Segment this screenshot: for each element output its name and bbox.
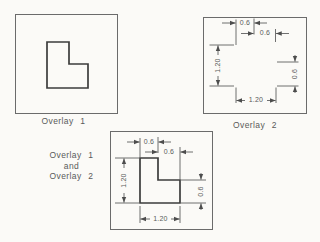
combined-caption-line-2: and bbox=[40, 161, 103, 172]
dim-label: 0.6 bbox=[144, 138, 154, 145]
combined-caption: Overlay 1 and Overlay 2 bbox=[40, 150, 103, 182]
dim-label: 0.6 bbox=[260, 29, 270, 36]
overlay-1-panel bbox=[15, 14, 118, 114]
dim-label: 1.20 bbox=[249, 96, 263, 103]
dim-label: 1.20 bbox=[153, 215, 167, 222]
combined-caption-line-3: Overlay 2 bbox=[40, 171, 103, 182]
overlay-2-caption: Overlay 2 bbox=[203, 120, 307, 130]
dim-label: 0.6 bbox=[291, 69, 298, 79]
panel-border bbox=[16, 15, 118, 114]
dim-label: 0.6 bbox=[197, 186, 204, 196]
l-shape-outline bbox=[140, 158, 180, 203]
overlay-2-panel: 0.6 0.6 1.20 0.6 bbox=[203, 17, 307, 114]
dim-label: 0.6 bbox=[240, 19, 250, 26]
combined-panel: 0.6 0.6 1.20 0.6 bbox=[110, 131, 213, 230]
dim-height bbox=[115, 158, 139, 203]
combined-caption-line-1: Overlay 1 bbox=[40, 150, 103, 161]
dim-label: 1.20 bbox=[214, 58, 221, 72]
l-shape-outline bbox=[47, 42, 88, 88]
figure-canvas: Overlay 1 0.6 0.6 1.20 bbox=[0, 0, 320, 242]
dim-label: 0.6 bbox=[164, 148, 174, 155]
overlay-1-caption: Overlay 1 bbox=[12, 116, 115, 126]
dim-label: 1.20 bbox=[120, 173, 127, 187]
